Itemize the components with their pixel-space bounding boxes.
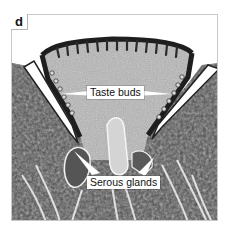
micrograph-image [12, 15, 218, 221]
taste-buds-label: Taste buds [87, 86, 144, 99]
panel-label: d [11, 14, 28, 30]
micrograph-frame [11, 14, 218, 221]
serous-glands-label: Serous glands [87, 176, 160, 189]
